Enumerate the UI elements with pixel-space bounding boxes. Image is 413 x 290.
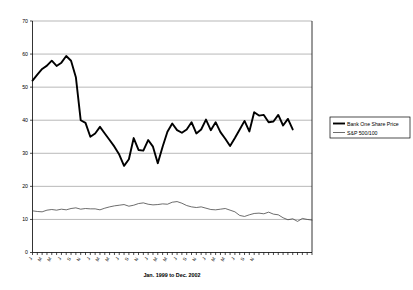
x-axis-tick-label: J [230, 257, 235, 261]
x-axis-tick-label: M [220, 256, 226, 262]
x-axis-tick-label: J [115, 257, 120, 261]
x-axis-tick-label: S [182, 257, 188, 262]
line-chart: 010203040506070 JMMJSNJMMJSNJMMJSNJMMJSN… [0, 0, 413, 290]
x-axis-tick-label: J [144, 257, 149, 261]
x-axis-tick-label: M [210, 256, 216, 262]
x-axis-tick-label: J [57, 257, 62, 261]
x-axis-tick-labels: JMMJSNJMMJSNJMMJSNJMMJSN [28, 256, 255, 262]
x-axis-tick-label: S [240, 257, 246, 262]
x-axis-tick-label: J [86, 257, 91, 261]
x-axis-tick-label: J [172, 257, 177, 261]
y-axis-tick-label: 60 [22, 51, 28, 57]
x-axis-tick-label: N [249, 257, 255, 262]
y-axis-tick-label: 0 [25, 249, 28, 255]
y-axis-tick-label: 50 [22, 84, 28, 90]
legend-label-bank-one-share-price: Bank One Share Price [347, 121, 399, 127]
legend-label-sp-500-100: S&P 500/100 [347, 130, 378, 136]
series-line-bank-one-share-price [33, 56, 293, 166]
x-axis-tick-label: M [152, 256, 158, 262]
y-axis-tick-label: 40 [22, 117, 28, 123]
x-axis-title: Jan. 1999 to Dec. 2002 [143, 272, 200, 278]
y-axis-tick-label: 20 [22, 183, 28, 189]
y-axis-tick-label: 10 [22, 216, 28, 222]
x-axis-tick-label: S [66, 257, 72, 262]
gridlines-group [33, 21, 313, 219]
y-axis-tick-label: 70 [22, 18, 28, 24]
x-axis-tick-label: N [76, 257, 82, 262]
x-axis-tick-label: M [37, 256, 43, 262]
series-line-sp-500-100 [33, 202, 313, 222]
x-axis-tick-label: S [124, 257, 130, 262]
x-axis-tick-label: J [201, 257, 206, 261]
y-axis-tick-labels: 010203040506070 [22, 18, 28, 256]
x-axis-tick-label: M [104, 256, 110, 262]
x-axis-tick-label: N [191, 257, 197, 262]
y-axis-tick-label: 30 [22, 150, 28, 156]
x-axis-tick-label: J [28, 257, 33, 261]
x-axis-tick-label: M [46, 256, 52, 262]
chart-container: 010203040506070 JMMJSNJMMJSNJMMJSNJMMJSN… [0, 0, 413, 290]
legend: Bank One Share Price S&P 500/100 [330, 117, 410, 138]
x-axis-tick-label: M [162, 256, 168, 262]
x-axis-tick-label: N [133, 257, 139, 262]
x-axis-tick-label: M [95, 256, 101, 262]
